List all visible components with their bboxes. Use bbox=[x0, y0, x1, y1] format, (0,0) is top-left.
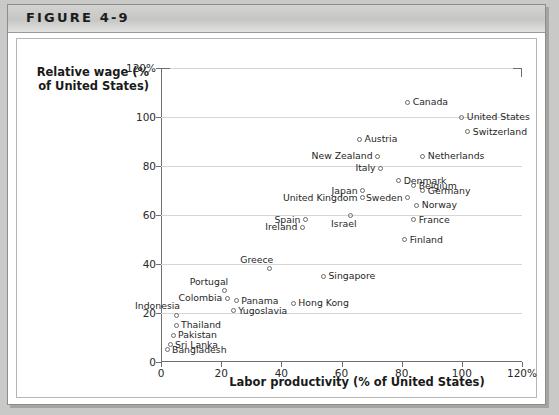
data-point-marker[interactable] bbox=[420, 154, 425, 159]
figure-number-label: FIGURE 4-9 bbox=[26, 10, 130, 25]
data-point-label: Hong Kong bbox=[298, 298, 349, 308]
figure-canvas: Relative wage (% of United States) 02040… bbox=[16, 38, 537, 398]
figure-outer-frame: FIGURE 4-9 Relative wage (% of United St… bbox=[0, 0, 559, 415]
data-point-label: Israel bbox=[331, 219, 356, 229]
data-point-marker[interactable] bbox=[231, 308, 236, 313]
y-tick-mark bbox=[156, 313, 161, 314]
data-point-label: Colombia bbox=[178, 293, 222, 303]
data-point-marker[interactable] bbox=[171, 333, 176, 338]
data-point-label: Greece bbox=[240, 255, 273, 265]
data-point-label: Ireland bbox=[265, 222, 297, 232]
y-tick-label: 0 bbox=[96, 356, 156, 368]
data-point-label: Italy bbox=[355, 163, 375, 173]
data-point-label: Yugoslavia bbox=[238, 306, 287, 316]
figure-plate: FIGURE 4-9 Relative wage (% of United St… bbox=[7, 4, 546, 405]
data-point-label: Switzerland bbox=[473, 127, 527, 137]
y-tick-label: 40 bbox=[96, 258, 156, 270]
data-point-marker[interactable] bbox=[357, 137, 362, 142]
data-point-marker[interactable] bbox=[291, 301, 296, 306]
figure-header-band: FIGURE 4-9 bbox=[8, 5, 545, 33]
data-point-marker[interactable] bbox=[459, 115, 464, 120]
data-point-marker[interactable] bbox=[375, 154, 380, 159]
data-point-label: Norway bbox=[422, 200, 457, 210]
y-tick-label: 120% bbox=[96, 62, 156, 74]
x-axis-title: Labor productivity (% of United States) bbox=[187, 375, 527, 389]
data-point-marker[interactable] bbox=[348, 213, 353, 218]
gridline bbox=[161, 166, 522, 167]
scatter-plot-area: 020406080100120% 020406080100120% Canada… bbox=[161, 68, 522, 362]
data-point-label: Finland bbox=[410, 235, 443, 245]
gridline bbox=[161, 68, 522, 69]
data-point-label: United States bbox=[467, 112, 530, 122]
data-point-label: Singapore bbox=[328, 271, 375, 281]
x-tick-label: 0 bbox=[158, 367, 165, 379]
data-point-label: Bangladesh bbox=[172, 345, 227, 355]
data-point-label: Portugal bbox=[190, 277, 229, 287]
data-point-label: Canada bbox=[413, 97, 448, 107]
data-point-marker[interactable] bbox=[234, 298, 239, 303]
gridline bbox=[161, 313, 522, 314]
gridline bbox=[161, 215, 522, 216]
data-point-label: Austria bbox=[365, 134, 398, 144]
y-tick-mark bbox=[156, 166, 161, 167]
data-point-label: Indonesia bbox=[135, 301, 180, 311]
data-point-marker[interactable] bbox=[414, 203, 419, 208]
data-point-marker[interactable] bbox=[225, 296, 230, 301]
data-point-label: United Kingdom bbox=[283, 193, 358, 203]
data-point-marker[interactable] bbox=[405, 100, 410, 105]
data-point-label: Germany bbox=[428, 186, 471, 196]
gridline bbox=[161, 264, 522, 265]
y-tick-label: 100 bbox=[96, 111, 156, 123]
data-point-marker[interactable] bbox=[174, 313, 179, 318]
frame-corner-stub bbox=[521, 68, 522, 77]
data-point-marker[interactable] bbox=[174, 323, 179, 328]
y-tick-mark bbox=[156, 117, 161, 118]
y-tick-mark bbox=[156, 264, 161, 265]
data-point-label: Netherlands bbox=[428, 151, 485, 161]
y-tick-mark bbox=[156, 215, 161, 216]
y-tick-label: 60 bbox=[96, 209, 156, 221]
y-tick-label: 80 bbox=[96, 160, 156, 172]
data-point-label: Sweden bbox=[366, 193, 403, 203]
data-point-marker[interactable] bbox=[165, 347, 170, 352]
frame-corner-stub bbox=[161, 68, 170, 69]
data-point-label: New Zealand bbox=[312, 151, 373, 161]
data-point-label: France bbox=[419, 215, 450, 225]
data-point-marker[interactable] bbox=[321, 274, 326, 279]
data-point-marker[interactable] bbox=[300, 225, 305, 230]
data-point-marker[interactable] bbox=[378, 166, 383, 171]
